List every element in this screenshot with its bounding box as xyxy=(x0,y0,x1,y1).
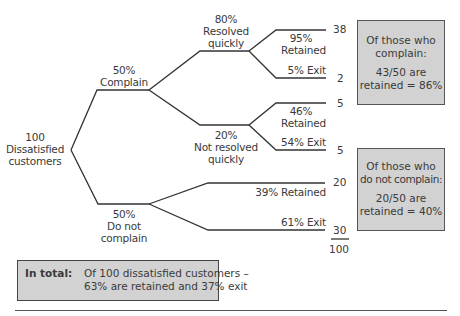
branch-complain xyxy=(71,90,149,150)
resolved-exit-label: 5% Exit xyxy=(270,64,326,76)
not-complain-pct: 50% xyxy=(96,208,152,220)
root-node-label: 100 Dissatisfied customers xyxy=(4,131,66,167)
not-complain-text-2: complain xyxy=(96,232,152,244)
total-summary-heading: In total: xyxy=(25,267,72,280)
total-summary-box: In total: Of 100 dissatisfied customers … xyxy=(17,260,219,301)
total-summary-line-2: 63% are retained and 37% exit xyxy=(84,280,249,293)
branch-resolved xyxy=(149,51,249,90)
not-complain-text-1: Do not xyxy=(96,220,152,232)
resolved-text-2: quickly xyxy=(196,37,256,49)
nocomplain-exit-label: 61% Exit xyxy=(260,216,326,228)
resolved-text-1: Resolved xyxy=(196,25,256,37)
not-complain-node-label: 50% Do not complain xyxy=(96,208,152,244)
count-resolved-exit: 2 xyxy=(337,72,344,84)
complain-node-label: 50% Complain xyxy=(96,64,152,88)
notresolved-retained-text: Retained xyxy=(276,117,326,129)
not-complain-summary-line-4: retained = 40% xyxy=(358,205,444,218)
total-summary-body: Of 100 dissatisfied customers – 63% are … xyxy=(84,267,249,293)
root-count: 100 xyxy=(4,131,66,143)
nocomplain-retained-text: 39% Retained xyxy=(240,186,326,198)
count-nocomplain-retained: 20 xyxy=(333,176,346,188)
root-title-2: customers xyxy=(4,155,66,167)
count-total: 100 xyxy=(329,243,349,255)
count-resolved-retained: 38 xyxy=(333,23,346,35)
resolved-pct: 80% xyxy=(196,13,256,25)
not-complain-summary-box: Of those who do not complain: 20/50 are … xyxy=(357,148,445,231)
root-title-1: Dissatisfied xyxy=(4,143,66,155)
resolved-retained-text: Retained xyxy=(276,44,326,56)
not-resolved-text-1: Not resolved xyxy=(190,141,262,153)
resolved-node-label: 80% Resolved quickly xyxy=(196,13,256,49)
complain-summary-box: Of those who complain: 43/50 are retaine… xyxy=(357,20,445,105)
notresolved-retained-pct: 46% xyxy=(276,105,326,117)
complain-summary-line-2: complain: xyxy=(358,47,444,60)
nocomplain-retained-label: 39% Retained xyxy=(240,186,326,198)
bottom-divider xyxy=(15,310,447,311)
resolved-exit-text: 5% Exit xyxy=(270,64,326,76)
total-summary-line-1: Of 100 dissatisfied customers – xyxy=(84,267,249,280)
not-complain-summary-line-3: 20/50 are xyxy=(358,192,444,205)
branch-not-complain xyxy=(71,150,149,204)
notresolved-exit-label: 54% Exit xyxy=(270,136,326,148)
complain-summary-line-4: retained = 86% xyxy=(358,79,444,92)
branch-not-resolved xyxy=(149,90,249,125)
count-nocomplain-exit: 30 xyxy=(333,224,346,236)
complain-text: Complain xyxy=(96,76,152,88)
complain-summary-line-3: 43/50 are xyxy=(358,66,444,79)
complain-pct: 50% xyxy=(96,64,152,76)
not-complain-summary-line-1: Of those who xyxy=(358,160,444,173)
nocomplain-exit-text: 61% Exit xyxy=(260,216,326,228)
count-notresolved-exit: 5 xyxy=(337,144,344,156)
not-resolved-node-label: 20% Not resolved quickly xyxy=(190,129,262,165)
not-resolved-pct: 20% xyxy=(190,129,262,141)
not-resolved-text-2: quickly xyxy=(190,153,262,165)
resolved-retained-pct: 95% xyxy=(276,32,326,44)
notresolved-retained-label: 46% Retained xyxy=(276,105,326,129)
complain-summary-line-1: Of those who xyxy=(358,34,444,47)
notresolved-exit-text: 54% Exit xyxy=(270,136,326,148)
not-complain-summary-line-2: do not complain: xyxy=(358,173,444,186)
count-notresolved-retained: 5 xyxy=(337,97,344,109)
resolved-retained-label: 95% Retained xyxy=(276,32,326,56)
